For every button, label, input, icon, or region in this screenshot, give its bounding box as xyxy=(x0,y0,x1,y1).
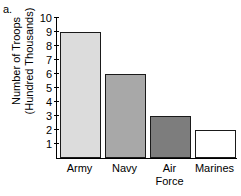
bar-series xyxy=(57,18,237,158)
y-tick-label: 3 xyxy=(36,110,52,122)
x-axis-label-line: Marines xyxy=(188,162,241,175)
y-tick-label: 4 xyxy=(36,96,52,108)
y-tick-label: 5 xyxy=(36,82,52,94)
bar xyxy=(150,116,191,158)
x-axis-labels: ArmyNavyAirForceMarines xyxy=(57,162,237,196)
bar xyxy=(105,74,146,158)
y-tick-label: 2 xyxy=(36,124,52,136)
y-tick-label: 7 xyxy=(36,54,52,66)
y-tick-label: 8 xyxy=(36,40,52,52)
x-axis-label-line: Force xyxy=(143,175,196,188)
bar xyxy=(195,130,236,158)
y-tick-label: 1 xyxy=(36,138,52,150)
x-axis-label: Marines xyxy=(188,162,241,175)
y-tick-label: 10 xyxy=(36,12,52,24)
y-tick-label: 6 xyxy=(36,68,52,80)
y-tick-label: 9 xyxy=(36,26,52,38)
bar xyxy=(60,32,101,158)
x-axis-line xyxy=(56,158,237,159)
bar-chart-figure: a. Number of Troops (Hundred Thousands) … xyxy=(0,0,241,196)
